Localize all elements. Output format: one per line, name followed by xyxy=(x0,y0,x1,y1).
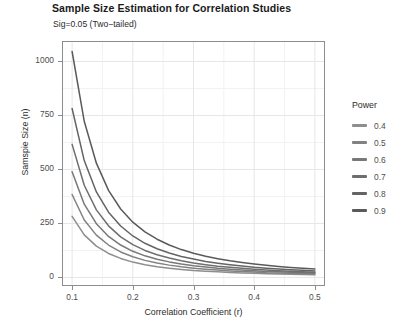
plot-panel xyxy=(62,41,325,286)
y-tick-mark xyxy=(58,61,62,62)
legend-item-label: 0.5 xyxy=(374,138,386,148)
x-tick-label: 0.1 xyxy=(55,292,89,302)
x-tick-label: 0.5 xyxy=(298,292,332,302)
chart-root: Sample Size Estimation for Correlation S… xyxy=(0,0,408,330)
legend-item-label: 0.9 xyxy=(374,206,386,216)
x-tick-label: 0.4 xyxy=(237,292,271,302)
legend-item-label: 0.4 xyxy=(374,121,386,131)
legend-line-swatch xyxy=(352,175,367,177)
legend-item-0.8[interactable]: 0.8 xyxy=(352,185,408,202)
x-tick-label: 0.2 xyxy=(116,292,150,302)
y-tick-mark xyxy=(58,115,62,116)
legend-item-0.7[interactable]: 0.7 xyxy=(352,168,408,185)
legend-item-0.5[interactable]: 0.5 xyxy=(352,134,408,151)
x-axis-label: Correlation Coefficient (r) xyxy=(62,307,325,317)
x-tick-mark xyxy=(194,286,195,290)
legend-item-0.9[interactable]: 0.9 xyxy=(352,202,408,219)
legend-title: Power xyxy=(352,100,408,110)
x-tick-mark xyxy=(72,286,73,290)
legend-item-0.4[interactable]: 0.4 xyxy=(352,117,408,134)
legend-items: 0.40.50.60.70.80.9 xyxy=(352,117,408,219)
legend-line-swatch xyxy=(352,124,367,126)
x-tick-mark xyxy=(133,286,134,290)
plot-svg xyxy=(63,42,324,285)
legend-line-swatch xyxy=(352,209,367,211)
legend-line-swatch xyxy=(352,158,367,160)
x-tick-mark xyxy=(315,286,316,290)
y-tick-label: 250 xyxy=(20,217,54,227)
y-tick-label: 1000 xyxy=(20,55,54,65)
y-tick-mark xyxy=(58,169,62,170)
legend-item-label: 0.6 xyxy=(374,155,386,165)
legend-item-label: 0.8 xyxy=(374,189,386,199)
chart-subtitle: Sig=0.05 (Two−tailed) xyxy=(53,19,137,29)
legend: Power 0.40.50.60.70.80.9 xyxy=(352,100,408,219)
y-tick-label: 0 xyxy=(20,271,54,281)
x-tick-mark xyxy=(254,286,255,290)
legend-line-swatch xyxy=(352,192,367,194)
y-axis-label: Samspie Size (n) xyxy=(20,72,30,212)
legend-item-0.6[interactable]: 0.6 xyxy=(352,151,408,168)
legend-item-label: 0.7 xyxy=(374,172,386,182)
x-tick-label: 0.3 xyxy=(177,292,211,302)
y-tick-mark xyxy=(58,223,62,224)
y-tick-mark xyxy=(58,277,62,278)
legend-line-swatch xyxy=(352,141,367,143)
chart-title: Sample Size Estimation for Correlation S… xyxy=(52,2,291,14)
